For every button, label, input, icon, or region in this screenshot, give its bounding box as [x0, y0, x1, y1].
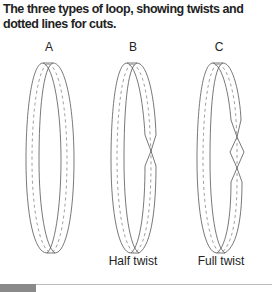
footer-divider: [36, 284, 272, 285]
loop-b-right-lower-b: [139, 151, 156, 253]
half-twist-label: Half twist: [109, 254, 158, 268]
loop-a-inner-left: [39, 63, 55, 253]
loop-c-cut-line-left: [203, 64, 221, 253]
loops-figure: [0, 0, 272, 292]
footer-bar: [0, 284, 36, 292]
loop-c-right-upper-a: [223, 63, 241, 137]
loop-b-right-lower-a: [131, 151, 151, 253]
loop-b: [111, 63, 156, 253]
loop-a-inner-right: [43, 63, 61, 253]
loop-a-cut-line-left: [32, 64, 51, 253]
loop-b-right-upper-a: [137, 63, 156, 151]
full-twist-label: Full twist: [198, 254, 245, 268]
loop-c-right-upper-b: [213, 63, 237, 137]
loop-c-right-lower-a: [217, 168, 237, 253]
loop-a-cut-line-right: [48, 64, 67, 253]
loop-c-right-lower-b: [225, 168, 242, 253]
loop-c-inner-left: [210, 63, 225, 253]
loop-b-inner-left: [124, 63, 139, 253]
loop-b-cut-line-left: [117, 64, 135, 253]
